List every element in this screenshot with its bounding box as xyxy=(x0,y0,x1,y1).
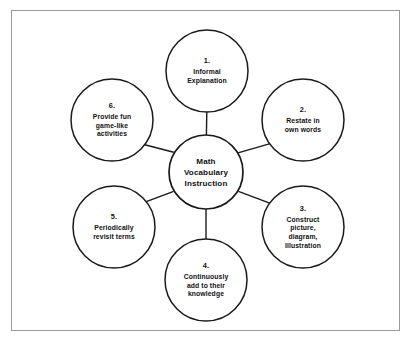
diagram-canvas: 1. Informal Explanation 2. Restate in ow… xyxy=(0,0,414,347)
node-circle-center[interactable] xyxy=(169,135,243,209)
spoke-center-to-node-2 xyxy=(238,143,272,153)
node-circle-4[interactable] xyxy=(165,239,247,321)
node-circle-2[interactable] xyxy=(262,79,344,161)
node-circle-5[interactable] xyxy=(73,186,155,268)
spoke-center-to-node-3 xyxy=(238,191,272,204)
node-circle-3[interactable] xyxy=(262,186,344,268)
node-circle-1[interactable] xyxy=(166,30,248,112)
node-circle-6[interactable] xyxy=(71,79,153,161)
diagram-graphics xyxy=(0,0,414,347)
